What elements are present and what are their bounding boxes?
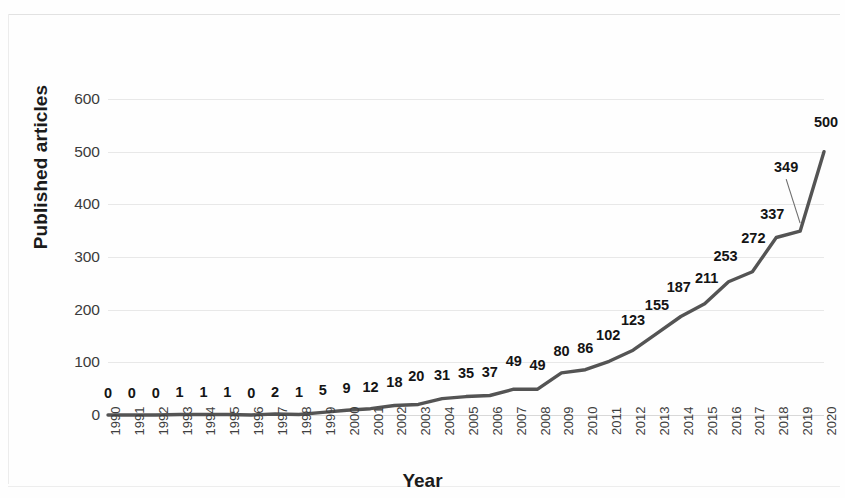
x-axis-tick-labels: 1990199119921993199419951996199719981999… — [108, 419, 824, 469]
y-axis-tick-labels: 0100200300400500600 — [50, 99, 100, 415]
data-point-label: 1 — [295, 384, 303, 400]
data-point-label: 0 — [247, 385, 255, 401]
y-axis-tick-label: 200 — [54, 301, 100, 319]
chart-figure: Published articles 0100200300400500600 0… — [0, 0, 845, 498]
data-point-label: 253 — [713, 248, 737, 264]
scan-border-left — [8, 14, 9, 484]
data-point-label: 12 — [362, 379, 378, 395]
data-point-label: 37 — [482, 364, 498, 380]
data-point-label: 35 — [458, 365, 474, 381]
data-point-label: 1 — [199, 384, 207, 400]
plot-area: 0001110215912182031353749498086102123155… — [108, 99, 824, 415]
data-point-label: 272 — [741, 230, 765, 246]
data-point-label: 211 — [695, 270, 718, 286]
data-point-label: 2 — [271, 384, 279, 400]
data-point-label: 80 — [553, 343, 569, 359]
data-point-label: 123 — [621, 312, 645, 328]
data-point-label: 20 — [408, 368, 424, 384]
data-point-label: 155 — [645, 297, 669, 313]
y-axis-tick-label: 300 — [54, 248, 100, 266]
data-point-label: 49 — [530, 357, 546, 373]
data-point-label: 0 — [128, 385, 136, 401]
data-point-label: 337 — [760, 206, 784, 222]
scan-border-top — [8, 14, 840, 15]
data-point-label: 187 — [667, 279, 691, 295]
y-axis-tick-label: 600 — [54, 90, 100, 108]
data-point-label: 1 — [176, 384, 184, 400]
x-axis-title: Year — [0, 470, 845, 492]
data-point-label: 31 — [434, 367, 450, 383]
data-point-label: 102 — [596, 327, 620, 343]
y-axis-tick-label: 500 — [54, 143, 100, 161]
data-point-label: 500 — [814, 114, 838, 130]
data-point-label: 86 — [577, 340, 593, 356]
y-axis-title: Published articles — [30, 52, 52, 282]
data-point-label: 0 — [152, 385, 160, 401]
data-point-label: 0 — [104, 385, 112, 401]
y-axis-tick-label: 0 — [54, 406, 100, 424]
data-point-label: 5 — [319, 382, 327, 398]
data-point-label: 18 — [386, 374, 402, 390]
data-point-label: 1 — [223, 384, 231, 400]
data-point-label: 9 — [343, 380, 351, 396]
data-point-label: 349 — [774, 159, 798, 175]
y-axis-tick-label: 100 — [54, 353, 100, 371]
data-label-leader-line — [786, 179, 800, 223]
data-point-label: 49 — [506, 353, 522, 369]
y-axis-tick-label: 400 — [54, 195, 100, 213]
